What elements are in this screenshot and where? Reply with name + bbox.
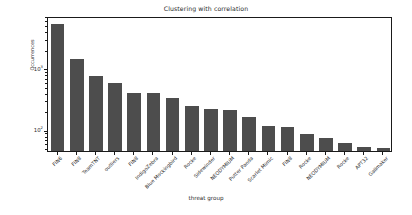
x-tick-mark <box>306 152 307 155</box>
bar <box>127 93 141 151</box>
x-tick-mark <box>325 152 326 155</box>
y-minor-tick-mark <box>45 144 47 145</box>
y-minor-tick-mark <box>45 140 47 141</box>
x-tick-label: Rocke <box>297 155 312 170</box>
bar <box>262 126 276 151</box>
bar <box>338 143 352 151</box>
x-tick-mark <box>95 152 96 155</box>
y-minor-tick-mark <box>45 83 47 84</box>
x-tick-mark <box>152 152 153 155</box>
bar <box>51 24 65 151</box>
x-tick-label: FIN8 <box>70 155 82 167</box>
y-minor-tick-mark <box>45 101 47 102</box>
x-tick-label: APT32 <box>354 155 369 170</box>
page-title: Clustering with correlation <box>0 5 412 12</box>
x-tick-label: FIN6 <box>51 155 63 167</box>
bar <box>300 134 314 151</box>
bar <box>147 93 161 151</box>
y-minor-tick-mark <box>45 17 47 18</box>
y-tick-mark <box>44 69 47 70</box>
x-tick-mark <box>287 152 288 155</box>
y-minor-tick-mark <box>45 21 47 22</box>
bar <box>70 59 84 151</box>
y-minor-tick-mark <box>45 94 47 95</box>
x-tick-mark <box>229 152 230 155</box>
y-minor-tick-mark <box>45 72 47 73</box>
x-tick-mark <box>191 152 192 155</box>
x-tick-label: outliers <box>103 155 120 172</box>
y-minor-tick-mark <box>45 26 47 27</box>
bar <box>357 147 371 151</box>
x-tick-mark <box>267 152 268 155</box>
x-tick-label: Gallmaker <box>367 155 389 177</box>
y-minor-tick-mark <box>45 51 47 52</box>
y-minor-tick-mark <box>45 137 47 138</box>
y-tick-label: 102 <box>34 127 43 133</box>
x-tick-mark <box>172 152 173 155</box>
y-minor-tick-mark <box>45 79 47 80</box>
y-axis-label: Occurrences <box>29 20 35 90</box>
bar <box>377 148 391 151</box>
x-tick-label: FIN8 <box>127 155 139 167</box>
bar <box>281 127 295 151</box>
figure-canvas: Clustering with correlation Occurrences … <box>0 0 412 215</box>
bar <box>185 106 199 151</box>
y-minor-tick-mark <box>45 88 47 89</box>
bar <box>108 83 122 151</box>
x-tick-label: Rocke <box>336 155 351 170</box>
bar <box>89 76 103 151</box>
x-tick-mark <box>344 152 345 155</box>
x-tick-mark <box>57 152 58 155</box>
y-minor-tick-mark <box>45 112 47 113</box>
bar <box>319 138 333 151</box>
y-tick-label: 103 <box>34 66 43 72</box>
plot-area <box>47 17 392 152</box>
x-tick-label: Rocke <box>182 155 197 170</box>
y-minor-tick-mark <box>45 32 47 33</box>
x-tick-label: FIN8 <box>281 155 293 167</box>
x-tick-mark <box>114 152 115 155</box>
y-minor-tick-mark <box>45 133 47 134</box>
x-tick-label: TeamTNT <box>81 155 102 176</box>
x-tick-mark <box>76 152 77 155</box>
y-minor-tick-mark <box>45 149 47 150</box>
bars-layer <box>48 18 391 151</box>
bar <box>242 117 256 151</box>
bar <box>204 109 218 151</box>
y-minor-tick-mark <box>45 40 47 41</box>
x-tick-mark <box>382 152 383 155</box>
bar <box>223 110 237 151</box>
bar <box>166 98 180 151</box>
y-minor-tick-mark <box>45 75 47 76</box>
x-tick-mark <box>210 152 211 155</box>
y-tick-mark <box>44 131 47 132</box>
x-axis-label: threat group <box>0 195 412 201</box>
